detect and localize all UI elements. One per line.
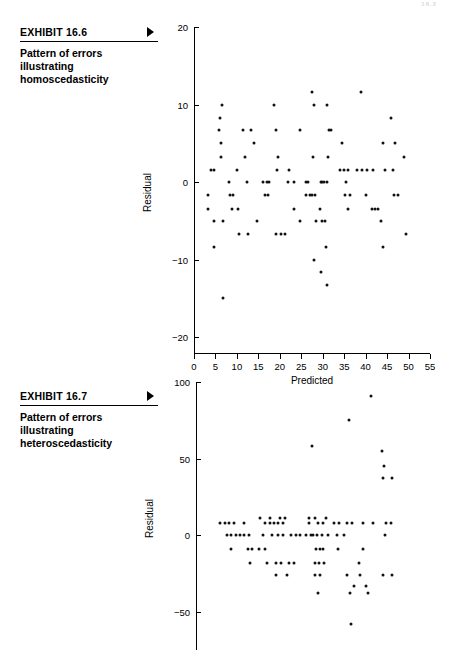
- x-axis-tick: [344, 354, 345, 359]
- scatter-point: [315, 220, 318, 223]
- scatter-point: [381, 142, 384, 145]
- scatter-point: [317, 592, 320, 595]
- scatter-point: [316, 534, 319, 537]
- x-axis-line: [194, 353, 430, 354]
- scatter-point: [281, 534, 284, 537]
- scatter-point: [371, 168, 374, 171]
- y-axis-tick: [194, 182, 199, 183]
- scatter-point: [391, 573, 394, 576]
- scatter-point: [345, 521, 348, 524]
- scatter-point: [348, 419, 351, 422]
- x-axis-tick-label: 45: [382, 361, 393, 372]
- y-axis-tick-label: −50: [156, 606, 190, 617]
- scatter-point: [218, 521, 221, 524]
- scatter-point: [272, 521, 275, 524]
- scatter-point: [318, 573, 321, 576]
- y-axis-line: [194, 27, 195, 353]
- y-axis-tick: [194, 260, 199, 261]
- x-axis-tick-label: 5: [213, 361, 218, 372]
- exhibit-caption-16-7: EXHIBIT 16.7 Pattern of errors illustrat…: [20, 390, 160, 450]
- scatter-point: [245, 181, 248, 184]
- x-axis-tick-label: 50: [403, 361, 414, 372]
- scatter-point: [223, 521, 226, 524]
- scatter-point: [403, 155, 406, 158]
- scatter-point: [277, 155, 280, 158]
- scatter-point: [243, 534, 246, 537]
- x-axis-tick: [280, 354, 281, 359]
- scatter-point: [277, 521, 280, 524]
- scatter-point: [239, 534, 242, 537]
- x-axis-tick: [237, 354, 238, 359]
- scatter-point: [392, 194, 395, 197]
- scatter-point: [343, 168, 346, 171]
- scatter-point: [305, 534, 308, 537]
- scatter-point: [298, 129, 301, 132]
- scatter-point: [233, 521, 236, 524]
- scatter-point: [255, 220, 258, 223]
- x-axis-tick: [301, 354, 302, 359]
- scatter-point: [264, 547, 267, 550]
- scatter-point: [314, 573, 317, 576]
- scatter-point: [288, 168, 291, 171]
- scatter-point: [393, 142, 396, 145]
- scatter-point: [283, 233, 286, 236]
- scatter-point: [381, 573, 384, 576]
- scatter-point: [226, 534, 229, 537]
- scatter-point: [367, 592, 370, 595]
- scatter-point: [312, 155, 315, 158]
- y-axis-tick: [196, 459, 201, 460]
- scatter-point: [274, 233, 277, 236]
- scatter-point: [380, 220, 383, 223]
- scatter-point: [270, 534, 273, 537]
- scatter-point: [299, 220, 302, 223]
- scatter-point: [248, 561, 251, 564]
- scatter-point: [279, 517, 282, 520]
- scatter-point: [288, 561, 291, 564]
- page-canvas: 16.2 EXHIBIT 16.6 Pattern of errors illu…: [0, 0, 451, 658]
- scatter-point: [266, 194, 269, 197]
- scatter-point: [275, 168, 278, 171]
- x-axis-tick-label: 0: [191, 361, 196, 372]
- scatter-point: [318, 561, 321, 564]
- scatter-point: [218, 129, 221, 132]
- scatter-point: [326, 534, 329, 537]
- scatter-point: [383, 168, 386, 171]
- x-axis-tick: [430, 354, 431, 359]
- scatter-point: [228, 521, 231, 524]
- scatter-point: [218, 116, 221, 119]
- scatter-point: [261, 181, 264, 184]
- scatter-point: [349, 194, 352, 197]
- scatter-point: [266, 561, 269, 564]
- scatter-point: [381, 246, 384, 249]
- scatter-point: [275, 561, 278, 564]
- scatter-point: [268, 521, 271, 524]
- y-axis-title: Residual: [142, 173, 153, 212]
- x-axis-tick: [215, 354, 216, 359]
- scatter-point: [279, 561, 282, 564]
- scatter-point: [234, 534, 237, 537]
- scatter-point: [220, 155, 223, 158]
- x-axis-tick: [194, 354, 195, 359]
- y-axis-tick: [196, 382, 201, 383]
- scatter-point: [285, 573, 288, 576]
- scatter-point: [310, 445, 313, 448]
- scatter-point: [228, 181, 231, 184]
- scatter-point: [389, 521, 392, 524]
- exhibit-title-row: EXHIBIT 16.7: [20, 390, 160, 405]
- x-axis-tick-label: 15: [253, 361, 264, 372]
- scatter-point: [347, 207, 350, 210]
- scatter-point: [220, 103, 223, 106]
- scatter-point: [220, 142, 223, 145]
- scatter-point: [365, 584, 368, 587]
- scatter-point: [314, 194, 317, 197]
- scatter-point: [392, 168, 395, 171]
- scatter-point: [242, 521, 245, 524]
- y-axis-tick-label: −10: [154, 254, 188, 265]
- scatter-point: [321, 534, 324, 537]
- y-axis-tick-label: −20: [154, 332, 188, 343]
- y-axis-tick-label: 0: [154, 177, 188, 188]
- scatter-point: [313, 103, 316, 106]
- x-axis-tick: [323, 354, 324, 359]
- exhibit-number-label: EXHIBIT 16.6: [20, 26, 87, 38]
- exhibit-number-label: EXHIBIT 16.7: [20, 390, 87, 402]
